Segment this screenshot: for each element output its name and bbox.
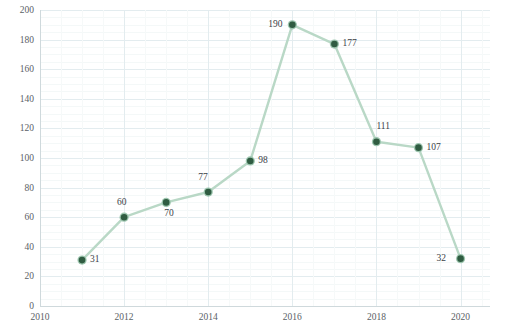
data-point-label: 77	[198, 172, 208, 182]
data-point-marker[interactable]	[457, 255, 464, 262]
data-point-label: 31	[90, 254, 100, 264]
data-point-label: 107	[427, 142, 441, 152]
data-point-label: 70	[164, 208, 174, 218]
data-point-marker[interactable]	[247, 158, 254, 165]
data-point-label: 177	[342, 38, 356, 48]
data-point-label: 190	[268, 19, 282, 29]
data-point-marker[interactable]	[415, 144, 422, 151]
data-point-marker[interactable]	[163, 199, 170, 206]
data-point-marker[interactable]	[121, 214, 128, 221]
data-point-label: 98	[258, 155, 268, 165]
data-point-marker[interactable]	[331, 41, 338, 48]
data-point-marker[interactable]	[79, 257, 86, 264]
data-point-marker[interactable]	[205, 189, 212, 196]
data-point-label: 60	[117, 197, 127, 207]
data-point-label: 111	[376, 121, 390, 131]
line-chart: 020406080100120140160180200 201020122014…	[0, 0, 509, 330]
data-point-label: 32	[437, 253, 447, 263]
data-point-marker[interactable]	[289, 22, 296, 29]
data-point-marker[interactable]	[373, 138, 380, 145]
data-series	[0, 0, 509, 330]
series-line	[82, 25, 461, 260]
